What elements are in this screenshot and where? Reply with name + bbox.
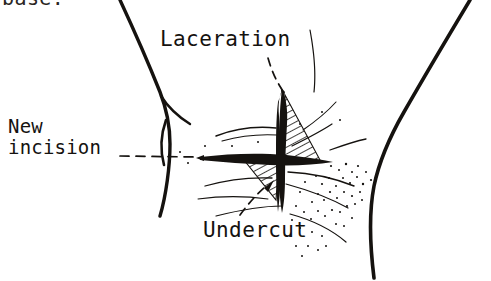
label-undercut: Undercut bbox=[203, 219, 307, 243]
clipped-caption-text: base. bbox=[2, 0, 64, 9]
label-new-incision-line2: incision bbox=[8, 136, 101, 158]
label-laceration: Laceration bbox=[160, 28, 290, 52]
illustration-figure: base. Laceration Newincision Undercut bbox=[0, 0, 491, 281]
label-new-incision: Newincision bbox=[8, 116, 101, 159]
label-new-incision-line1: New bbox=[8, 115, 43, 137]
